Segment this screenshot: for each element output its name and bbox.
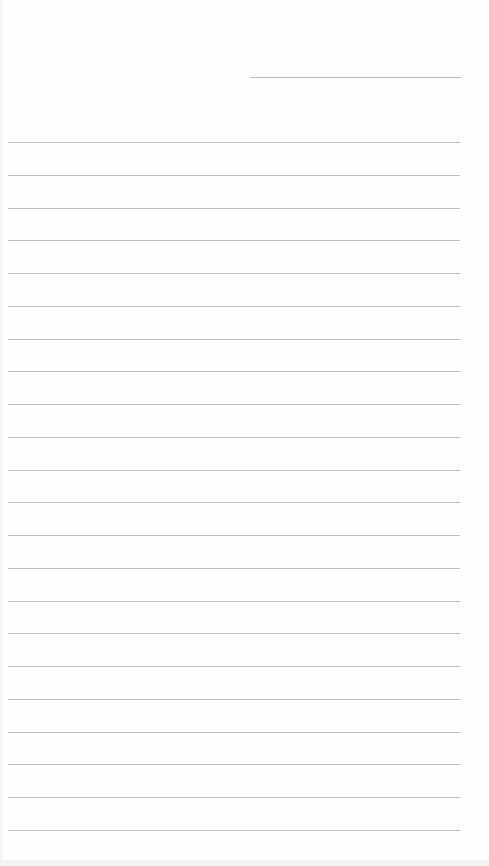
ruled-line: [8, 240, 460, 241]
page-edge-shadow: [0, 0, 3, 866]
ruled-line: [8, 830, 460, 831]
ruled-line: [8, 535, 460, 536]
ruled-line: [8, 371, 460, 372]
ruled-line: [8, 142, 460, 143]
ruled-line: [8, 470, 460, 471]
ruled-line: [8, 601, 460, 602]
ruled-line: [8, 502, 460, 503]
ruled-line: [8, 568, 460, 569]
ruled-line: [8, 306, 460, 307]
lined-page: [0, 0, 489, 866]
date-line: [250, 77, 461, 78]
ruled-line: [8, 666, 460, 667]
ruled-line: [8, 699, 460, 700]
ruled-line: [8, 208, 460, 209]
ruled-line: [8, 273, 460, 274]
ruled-line: [8, 732, 460, 733]
ruled-line: [8, 339, 460, 340]
ruled-line: [8, 404, 460, 405]
ruled-line: [8, 437, 460, 438]
ruled-line: [8, 175, 460, 176]
ruled-line: [8, 633, 460, 634]
ruled-line: [8, 797, 460, 798]
ruled-line: [8, 764, 460, 765]
page-bottom-edge: [0, 860, 489, 866]
